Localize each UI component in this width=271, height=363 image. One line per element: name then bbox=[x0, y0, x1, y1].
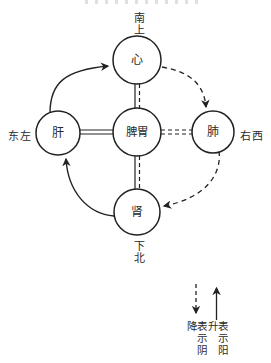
spleen-stomach-label: 脾胃 bbox=[126, 125, 148, 138]
lung-label: 肺 bbox=[207, 125, 219, 139]
arrow-heart-to-lung-dashed bbox=[162, 67, 206, 107]
orientation-label-south-up: 南上 bbox=[133, 12, 144, 36]
orientation-label-down-north: 下北 bbox=[133, 240, 144, 264]
legend-yin-descending-label: 表示阴降 bbox=[186, 321, 207, 363]
arrow-kidney-to-liver-solid bbox=[66, 159, 114, 216]
kidney-label: 肾 bbox=[131, 205, 143, 219]
heart-label: 心 bbox=[131, 53, 143, 67]
arrow-lung-to-kidney-dashed bbox=[164, 151, 219, 206]
diagram-svg: 心 肝 脾胃 肺 肾 bbox=[0, 0, 271, 363]
orientation-label-east-left: 东左 bbox=[8, 127, 32, 143]
five-phases-diagram: 心 肝 脾胃 肺 肾 南上 东左 右西 下北 表示阴降 表示阳升 bbox=[0, 0, 271, 363]
arrow-liver-to-heart-solid bbox=[50, 66, 108, 113]
legend-yang-rising-label: 表示阳升 bbox=[207, 321, 228, 363]
liver-label: 肝 bbox=[52, 126, 64, 140]
orientation-label-right-west: 右西 bbox=[240, 127, 264, 143]
